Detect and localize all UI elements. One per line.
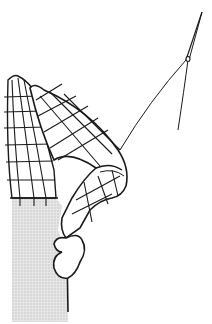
illustration-canvas (0, 0, 212, 324)
thread (120, 60, 188, 150)
hand-fist (54, 235, 85, 278)
arm-needle-illustration (0, 0, 212, 324)
needle-icon (186, 12, 202, 62)
